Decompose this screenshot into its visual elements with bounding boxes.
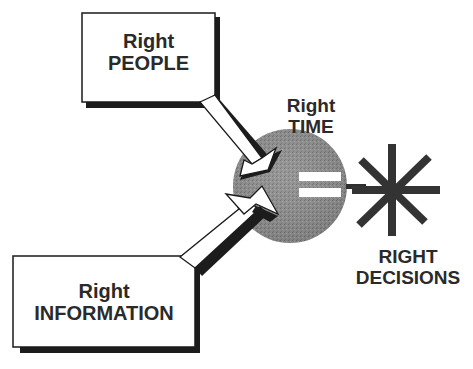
asterisk-icon bbox=[352, 144, 440, 236]
people-label: Right PEOPLE bbox=[82, 30, 215, 75]
information-label-line1: Right bbox=[13, 280, 195, 302]
people-label-line2: PEOPLE bbox=[82, 52, 215, 74]
decisions-label-line1: RIGHT bbox=[348, 246, 468, 267]
information-label: Right INFORMATION bbox=[13, 280, 195, 325]
information-label-line2: INFORMATION bbox=[13, 302, 195, 324]
decisions-label-line2: DECISIONS bbox=[348, 267, 468, 288]
time-label: Right TIME bbox=[270, 95, 352, 138]
time-label-line1: Right bbox=[270, 95, 352, 116]
decisions-label: RIGHT DECISIONS bbox=[348, 246, 468, 289]
people-label-line1: Right bbox=[82, 30, 215, 52]
time-label-line2: TIME bbox=[270, 116, 352, 137]
